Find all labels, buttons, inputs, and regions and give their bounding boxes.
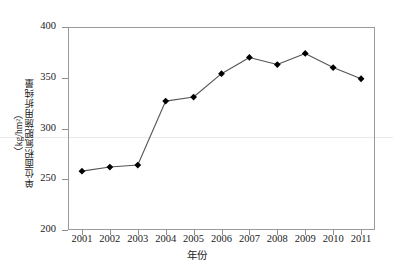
chart-canvas: 单位面积氮肥施用折纯量 （kg/hm²） 200250300350400 200… [0,0,393,271]
y-tick-label-300: 300 [22,123,56,133]
x-tick-label-2011: 2011 [340,233,382,244]
y-tick-label-200: 200 [22,224,56,234]
y-tick-label-350: 350 [22,72,56,82]
y-tick-label-400: 400 [22,21,56,31]
y-tick-label-250: 250 [22,173,56,183]
y-tick-250 [62,179,68,180]
plot-area [68,27,375,230]
y-tick-300 [62,129,68,130]
y-axis-title: 单位面积氮肥施用折纯量 （kg/hm²） [10,30,40,235]
y-tick-400 [62,27,68,28]
y-axis-title-main: 单位面积氮肥施用折纯量 [25,78,36,188]
y-tick-350 [62,78,68,79]
x-axis-title: 年份 [0,247,393,262]
y-tick-200 [62,230,68,231]
